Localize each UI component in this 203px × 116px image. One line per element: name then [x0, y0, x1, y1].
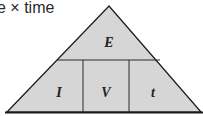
formula-triangle: E I V t	[0, 0, 203, 116]
label-current: I	[55, 85, 62, 100]
label-energy: E	[103, 35, 113, 50]
